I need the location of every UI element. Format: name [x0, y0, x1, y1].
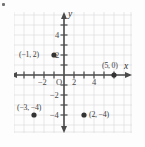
origin-label: O [56, 78, 62, 87]
y-tick-label-neg4: −4 [50, 111, 59, 120]
y-tick-label-neg2: −2 [50, 91, 59, 100]
scan-artifact-speck [2, 3, 5, 6]
y-tick-label-4: 4 [55, 31, 59, 40]
y-axis-label: y [68, 10, 72, 20]
coordinate-plane-figure: −2 2 4 4 2 −2 −4 O y x (−1, 2) (5, 0) (−… [0, 0, 145, 147]
point-label-neg1-2: (−1, 2) [19, 51, 39, 59]
point-label-2-neg4: (2, −4) [89, 111, 109, 119]
point-label-5-0: (5, 0) [102, 62, 118, 70]
y-axis [61, 12, 68, 133]
x-axis-label: x [124, 62, 128, 72]
plot-area: −2 2 4 4 2 −2 −4 O y x (−1, 2) (5, 0) (−… [14, 12, 132, 133]
x-tick-label-2: 2 [72, 78, 76, 87]
data-point-2-neg4 [81, 112, 86, 117]
graph-svg [14, 12, 132, 133]
point-label-neg3-neg4: (−3, −4) [17, 104, 41, 112]
y-tick-label-2: 2 [55, 51, 59, 60]
x-tick-label-neg2: −2 [38, 78, 47, 87]
data-point-neg3-neg4 [31, 112, 36, 117]
data-point-5-0 [111, 72, 116, 77]
x-tick-label-4: 4 [92, 78, 96, 87]
